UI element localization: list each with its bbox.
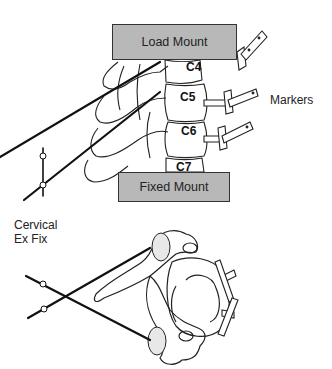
- clamp-joint: [41, 306, 47, 312]
- fixator-label-line1: Cervical: [14, 218, 57, 232]
- fixed-mount-label: Fixed Mount: [140, 180, 209, 194]
- vertebra-label-c4: C4: [186, 60, 201, 74]
- fixator-label: Cervical Ex Fix: [14, 218, 57, 246]
- marker-c4: [237, 31, 267, 70]
- vertebra-label-c6: C6: [181, 124, 196, 138]
- vertebra-label-c7: C7: [176, 160, 191, 174]
- fixator-label-line2: Ex Fix: [14, 232, 57, 246]
- marker-c5: [204, 89, 258, 114]
- vertebra-label-c5: C5: [180, 90, 195, 104]
- marker-c6: [204, 122, 253, 150]
- clamp-joint: [40, 281, 46, 287]
- load-mount: Load Mount: [112, 24, 237, 60]
- markers-label: Markers: [270, 93, 313, 107]
- clamp-joint: [40, 182, 46, 188]
- clamp-joint: [40, 153, 46, 159]
- load-mount-label: Load Mount: [141, 35, 207, 49]
- fixed-mount: Fixed Mount: [118, 172, 230, 202]
- ex-fix-rods-axial: [26, 248, 150, 340]
